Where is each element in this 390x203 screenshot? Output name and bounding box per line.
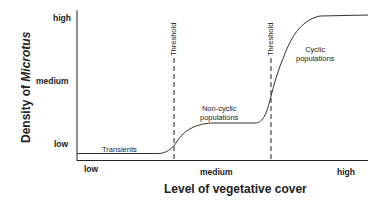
x-axis-title: Level of vegetative cover <box>164 182 307 196</box>
region-label-cyclic: Cyclic populations <box>296 45 334 63</box>
region-label-transients: Transients <box>102 145 137 154</box>
y-tick-low: low <box>54 139 68 149</box>
chart-canvas <box>0 0 390 203</box>
region-label-non-cyclic-line1: Non-cyclic <box>200 104 238 113</box>
region-label-cyclic-line2: populations <box>296 54 334 63</box>
x-tick-high: high <box>337 167 355 177</box>
y-axis-title-species: Microtus <box>19 32 33 82</box>
region-label-cyclic-line1: Cyclic <box>296 45 334 54</box>
y-tick-high: high <box>53 13 71 23</box>
threshold-label-1: Threshold <box>169 23 178 56</box>
y-axis-title: Density of Microtus <box>19 32 33 143</box>
y-tick-medium: medium <box>36 76 69 86</box>
density-curve <box>77 15 368 154</box>
threshold-label-2: Threshold <box>266 23 275 56</box>
region-label-non-cyclic: Non-cyclic populations <box>200 104 238 122</box>
y-axis-title-prefix: Density of <box>19 82 33 143</box>
x-tick-medium: medium <box>200 167 233 177</box>
x-tick-low: low <box>84 164 98 174</box>
region-label-non-cyclic-line2: populations <box>200 113 238 122</box>
